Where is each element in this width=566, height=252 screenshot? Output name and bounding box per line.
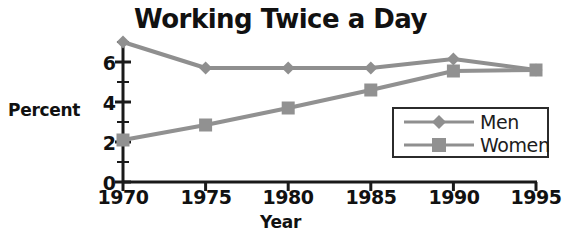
legend-marker-square-icon [402, 134, 476, 156]
data-point-marker [530, 64, 543, 77]
data-point-marker [364, 62, 377, 75]
series-line-men [123, 42, 536, 70]
data-point-marker [199, 119, 212, 132]
legend-item-women[interactable]: Women [394, 134, 551, 158]
data-point-marker [199, 62, 212, 75]
legend: Men Women [392, 107, 549, 158]
data-point-marker [117, 134, 130, 147]
legend-label-men: Men [480, 111, 519, 133]
data-point-marker [447, 65, 460, 78]
legend-marker-diamond-icon [402, 111, 476, 133]
data-point-marker [282, 102, 295, 115]
data-point-marker [447, 53, 460, 66]
legend-label-women: Women [480, 134, 550, 156]
data-point-marker [364, 84, 377, 97]
data-point-marker [117, 36, 130, 49]
legend-item-men[interactable]: Men [394, 111, 551, 135]
data-point-marker [282, 62, 295, 75]
